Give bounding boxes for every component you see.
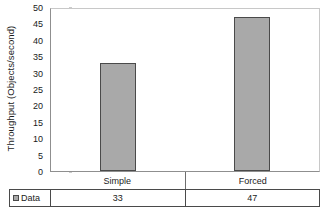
y-axis-tick-labels: 05101520253035404550 — [22, 8, 46, 172]
bars-layer — [51, 9, 319, 171]
y-axis-title-text: Throughput (Objects/second) — [6, 25, 17, 151]
bar-slot — [185, 9, 319, 171]
y-axis-tick-label: 10 — [33, 135, 43, 144]
y-axis-tick-label: 0 — [38, 168, 43, 177]
y-axis-tick-label: 25 — [33, 86, 43, 95]
y-axis-tick-label: 15 — [33, 118, 43, 127]
y-axis-tick-label: 30 — [33, 69, 43, 78]
y-axis-tick-label: 40 — [33, 36, 43, 45]
bar-chart: Throughput (Objects/second) 051015202530… — [0, 0, 327, 215]
legend-swatch-icon — [13, 195, 19, 201]
legend-label: Data — [21, 193, 40, 203]
bar-simple — [100, 63, 136, 171]
x-axis-category-row: SimpleForced — [50, 172, 320, 189]
data-table-value: 47 — [185, 190, 320, 206]
legend-cell: Data — [10, 190, 51, 206]
y-axis-tick-label: 35 — [33, 53, 43, 62]
data-table: Data 3347 — [9, 189, 320, 207]
bar-forced — [234, 17, 270, 171]
x-axis-category-label: Forced — [185, 172, 321, 189]
y-axis-title: Throughput (Objects/second) — [0, 0, 22, 176]
y-axis-tick-label: 20 — [33, 102, 43, 111]
y-axis-tick-label: 5 — [38, 151, 43, 160]
plot-area — [50, 8, 320, 172]
bar-slot — [51, 9, 185, 171]
x-axis-category-label: Simple — [50, 172, 185, 189]
y-axis-tick-label: 50 — [33, 4, 43, 13]
y-axis-tick-label: 45 — [33, 20, 43, 29]
data-table-value: 33 — [51, 190, 185, 206]
